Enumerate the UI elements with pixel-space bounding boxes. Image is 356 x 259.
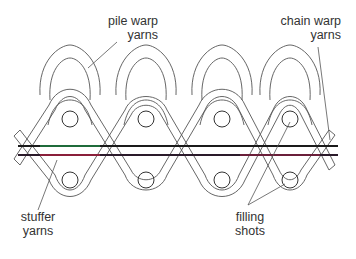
pile-warp-leader [88, 42, 117, 68]
pile-warp-loops [40, 45, 320, 125]
chain-warp-label-line2: yarns [270, 28, 341, 42]
stuffer-label: stuffer yarns [16, 210, 60, 238]
pile-warp-label-line2: yarns [95, 28, 158, 42]
pile-warp-label: pile warp yarns [95, 14, 158, 42]
stuffer-label-line2: yarns [16, 224, 60, 238]
chain-warp-label-line1: chain warp [270, 14, 341, 28]
stuffer-leader [38, 160, 57, 210]
stuffer-label-line1: stuffer [16, 210, 60, 224]
filling-label-line1: filling [230, 210, 270, 224]
stuffer-yarns [18, 146, 338, 155]
filling-label-line2: shots [230, 224, 270, 238]
filling-label: filling shots [230, 210, 270, 238]
pile-warp-label-line1: pile warp [95, 14, 158, 28]
chain-warp-label: chain warp yarns [270, 14, 341, 42]
